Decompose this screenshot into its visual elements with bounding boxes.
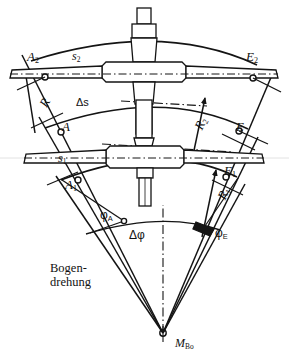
label-phi-a: φA xyxy=(100,209,113,222)
phi-e-marker xyxy=(193,222,214,236)
wheel-web-right-upper xyxy=(186,66,278,78)
shaft-upper-lower xyxy=(136,100,152,138)
shaft-taper-upper xyxy=(131,38,157,62)
caption-line-1: Bogen- xyxy=(50,262,87,275)
wheel-web-right-lower xyxy=(184,150,264,163)
label-a2: A2 xyxy=(27,50,39,65)
stub-e2 xyxy=(253,78,281,92)
label-center-point: MBo xyxy=(175,337,194,350)
caption-line-2: drehung xyxy=(50,276,91,289)
figure-container: A2 s2 E2 A E s1 E1 A1 Δs Δφ φA φE R R2 R… xyxy=(0,0,289,363)
label-e1: E1 xyxy=(224,164,236,179)
delta-s-centerline xyxy=(121,101,207,106)
label-delta-s: Δs xyxy=(76,97,89,108)
wheel-hub-lower xyxy=(106,146,184,168)
label-s1: s1 xyxy=(58,152,66,165)
label-a: A xyxy=(62,120,70,133)
radial-end-inner xyxy=(163,184,245,333)
label-a1: A1 xyxy=(65,178,77,193)
label-e: E xyxy=(236,120,244,133)
wheel-web-left-upper xyxy=(10,66,102,78)
shaft-taper-lower xyxy=(134,138,154,146)
radius-arrow-left xyxy=(25,70,35,133)
shaft-collar-lower xyxy=(137,168,153,178)
label-e2: E2 xyxy=(246,50,258,65)
radial-end-outer xyxy=(163,75,272,333)
stub-a2 xyxy=(17,77,45,90)
shaft-top-cap xyxy=(137,8,151,24)
marker-phi-a-vertex xyxy=(121,218,126,223)
label-delta-phi: Δφ xyxy=(129,229,145,241)
label-s2: s2 xyxy=(72,50,80,63)
label-phi-e: φE xyxy=(215,227,228,240)
shaft-collar-upper xyxy=(132,24,156,38)
wheel-hub-upper xyxy=(102,62,186,82)
